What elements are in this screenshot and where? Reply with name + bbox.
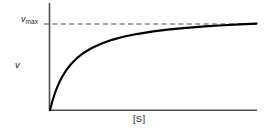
plot-area: [0, 0, 277, 131]
michaelis-menten-curve: [50, 24, 257, 111]
y-axis-label: v: [15, 60, 20, 70]
michaelis-menten-figure: v [S] vmax: [0, 0, 277, 131]
vmax-symbol: v: [21, 14, 26, 24]
x-axis-label: [S]: [133, 114, 145, 124]
vmax-label: vmax: [21, 15, 38, 24]
vmax-subscript: max: [26, 18, 39, 25]
